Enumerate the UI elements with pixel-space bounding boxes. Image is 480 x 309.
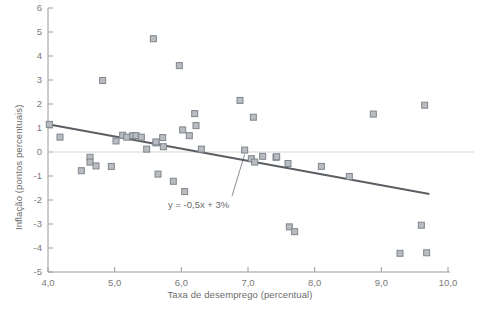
data-point [252, 159, 258, 165]
data-point [46, 121, 52, 127]
data-point [285, 161, 291, 167]
data-point [198, 146, 204, 152]
data-point [186, 133, 192, 139]
data-point [424, 250, 430, 256]
data-point [250, 114, 256, 120]
data-point [93, 163, 99, 169]
data-point [176, 63, 182, 69]
data-point [182, 189, 188, 195]
data-point [138, 134, 144, 140]
data-point [57, 134, 63, 140]
data-point [155, 171, 161, 177]
data-point [124, 134, 130, 140]
data-point [346, 173, 352, 179]
data-point [318, 163, 324, 169]
tick-marks [48, 8, 448, 272]
data-point [108, 163, 114, 169]
data-point [160, 135, 166, 141]
data-point [153, 139, 159, 145]
data-point [237, 97, 243, 103]
data-point [170, 178, 176, 184]
axis-lines [48, 8, 450, 272]
data-point [150, 36, 156, 42]
data-point [242, 147, 248, 153]
plot-area [0, 0, 480, 309]
trendline [49, 124, 429, 194]
data-point [422, 102, 428, 108]
data-point [180, 127, 186, 133]
data-points [46, 36, 429, 257]
regression-trendline [49, 124, 429, 194]
data-point [87, 159, 93, 165]
scatter-chart: Inflação (pontos percentuais) Taxa de de… [0, 0, 480, 309]
data-point [100, 77, 106, 83]
data-point [418, 222, 424, 228]
data-point [192, 111, 198, 117]
data-point [370, 111, 376, 117]
data-point [144, 146, 150, 152]
data-point [274, 154, 280, 160]
data-point [193, 123, 199, 129]
data-point [160, 144, 166, 150]
data-point [78, 168, 84, 174]
data-point [113, 138, 119, 144]
data-point [260, 153, 266, 159]
data-point [397, 250, 403, 256]
data-point [292, 229, 298, 235]
